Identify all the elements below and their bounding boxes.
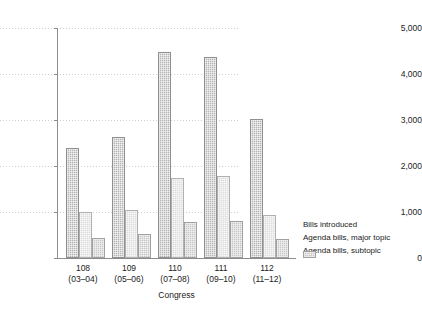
y-tick-label: 5,000 bbox=[376, 24, 422, 33]
legend-item-bills-introduced: Bills introduced bbox=[303, 219, 390, 231]
bar bbox=[66, 148, 79, 258]
y-tick-label: 1,000 bbox=[376, 208, 422, 217]
bar bbox=[250, 119, 263, 258]
bar-group-112 bbox=[250, 28, 289, 258]
bar bbox=[79, 212, 92, 258]
x-tick-primary: 110 bbox=[168, 263, 182, 273]
bar bbox=[276, 239, 289, 258]
y-tick-label: 4,000 bbox=[376, 70, 422, 79]
legend-item-label: Agenda bills, major topic bbox=[303, 234, 390, 242]
bar bbox=[263, 215, 276, 258]
legend-swatch-icon bbox=[303, 251, 316, 258]
x-tick-secondary: (11–12) bbox=[237, 274, 297, 285]
bar bbox=[204, 57, 217, 258]
legend: Bills introduced Agenda bills, major top… bbox=[303, 219, 390, 258]
bar bbox=[230, 221, 243, 258]
bar bbox=[158, 52, 171, 258]
x-tick-primary: 112 bbox=[260, 263, 274, 273]
bar-group-109 bbox=[112, 28, 151, 258]
x-axis-line bbox=[57, 258, 296, 259]
bar bbox=[125, 210, 138, 258]
bar bbox=[92, 238, 105, 258]
bar-group-111 bbox=[204, 28, 243, 258]
plot-area bbox=[57, 28, 295, 258]
bar-chart: 5,000 4,000 3,000 2,000 1,000 0 108 (03–… bbox=[0, 0, 422, 311]
bar-group-110 bbox=[158, 28, 197, 258]
legend-item-agenda-major-topic: Agenda bills, major topic bbox=[303, 232, 390, 244]
x-tick-primary: 109 bbox=[122, 263, 136, 273]
bar bbox=[112, 137, 125, 258]
x-tick-primary: 111 bbox=[215, 263, 228, 273]
bar-group-108 bbox=[66, 28, 105, 258]
x-tick-primary: 108 bbox=[76, 263, 90, 273]
bar bbox=[184, 222, 197, 258]
y-tick-label: 2,000 bbox=[376, 162, 422, 171]
bar bbox=[138, 234, 151, 258]
x-tick-label-112: 112 (11–12) bbox=[237, 263, 297, 285]
bar bbox=[217, 176, 230, 258]
legend-item-agenda-subtopic: Agenda bills, subtopic bbox=[303, 245, 390, 257]
x-axis-title: Congress bbox=[57, 290, 296, 300]
legend-item-label: Bills introduced bbox=[303, 221, 357, 229]
y-tick-label: 3,000 bbox=[376, 116, 422, 125]
bar bbox=[171, 178, 184, 258]
